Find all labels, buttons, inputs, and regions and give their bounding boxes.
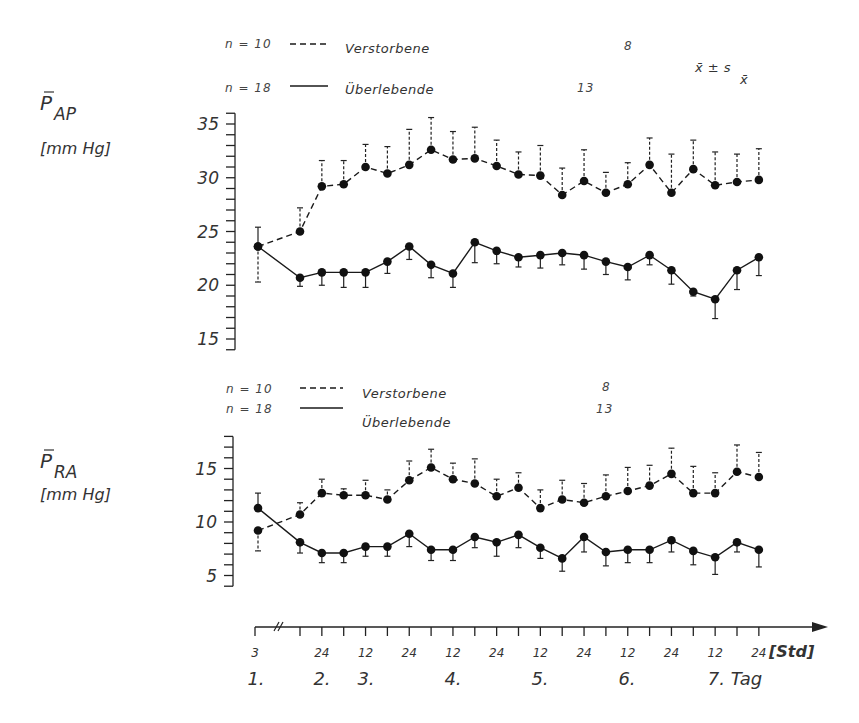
- series-deceased-line: [258, 150, 759, 247]
- y-tick-label: 5: [206, 566, 217, 586]
- x-hour-label: 24: [576, 646, 591, 660]
- x-day-label: 4.: [444, 668, 461, 689]
- data-point: [580, 498, 589, 507]
- data-point: [405, 161, 414, 170]
- data-point: [361, 268, 370, 277]
- legend2-survivors-name: Überlebende: [362, 414, 451, 430]
- data-point: [318, 489, 327, 498]
- x-hour-label: 12: [445, 646, 460, 660]
- data-point: [296, 227, 305, 236]
- data-point: [755, 176, 764, 185]
- data-point: [318, 182, 327, 191]
- data-point: [645, 251, 654, 260]
- data-point: [514, 531, 523, 540]
- data-point: [383, 542, 392, 551]
- data-point: [689, 547, 698, 556]
- y-tick-label: 30: [197, 168, 219, 188]
- data-point: [755, 253, 764, 262]
- data-point: [645, 546, 654, 555]
- legend-survivors-end-n: 13: [577, 81, 594, 95]
- data-point: [471, 479, 480, 488]
- data-point: [514, 483, 523, 492]
- data-point: [645, 161, 654, 170]
- legend-survivors-name: Überlebende: [345, 81, 434, 97]
- legend-deceased-n: n = 10: [225, 37, 272, 51]
- pap-y-axis: 1520253035: [197, 113, 235, 350]
- pra-ylabel-main: P: [40, 449, 53, 473]
- data-point: [733, 467, 742, 476]
- data-point: [755, 546, 764, 555]
- data-point: [339, 268, 348, 277]
- data-point: [667, 470, 676, 479]
- data-point: [689, 489, 698, 498]
- data-point: [667, 536, 676, 545]
- y-tick-label: 20: [197, 275, 219, 295]
- legend-lower: n = 10 Verstorbene 8 n = 18 Überlebende …: [226, 380, 613, 430]
- data-point: [254, 504, 263, 513]
- data-point: [623, 546, 632, 555]
- x-hour-label: 12: [533, 646, 548, 660]
- data-point: [514, 253, 523, 262]
- pra-plot-area: [254, 445, 763, 574]
- data-point: [427, 261, 436, 270]
- data-point: [318, 268, 327, 277]
- data-point: [580, 251, 589, 260]
- data-point: [602, 492, 611, 501]
- data-point: [733, 178, 742, 187]
- x-hour-label: 12: [358, 646, 373, 660]
- x-hour-label: 24: [402, 646, 417, 660]
- x-hour-label: 24: [314, 646, 329, 660]
- data-point: [667, 266, 676, 275]
- data-point: [492, 162, 501, 171]
- x-hour-label: 12: [708, 646, 723, 660]
- legend-survivors-n: n = 18: [225, 81, 272, 95]
- data-point: [645, 481, 654, 490]
- data-point: [296, 538, 305, 547]
- x-hour-label: 12: [620, 646, 635, 660]
- data-point: [558, 495, 567, 504]
- y-tick-label: 25: [197, 222, 219, 242]
- data-point: [733, 538, 742, 547]
- data-point: [602, 257, 611, 266]
- series-deceased-line: [258, 467, 759, 530]
- data-point: [383, 495, 392, 504]
- data-point: [318, 549, 327, 558]
- data-point: [296, 273, 305, 282]
- data-point: [405, 476, 414, 485]
- data-point: [580, 533, 589, 542]
- y-tick-label: 10: [195, 512, 217, 532]
- data-point: [580, 177, 589, 186]
- pap-plot-area: [254, 118, 763, 319]
- data-point: [711, 295, 720, 304]
- y-tick-label: 15: [195, 459, 217, 479]
- series-survivors-line: [258, 242, 759, 299]
- y-tick-label: 15: [197, 329, 219, 349]
- stat-label: x̄ ± s x̄: [694, 60, 748, 87]
- data-point: [602, 189, 611, 198]
- x-hour-label: 24: [664, 646, 679, 660]
- data-point: [711, 181, 720, 190]
- figure-canvas: n = 10 Verstorbene 8 n = 18 Überlebende …: [0, 0, 859, 723]
- data-point: [755, 473, 764, 482]
- pra-y-axis: 51015: [195, 436, 233, 586]
- x-hour-label: 24: [751, 646, 766, 660]
- data-point: [254, 526, 263, 535]
- pap-ylabel-main: P: [40, 91, 53, 115]
- data-point: [492, 492, 501, 501]
- legend-upper: n = 10 Verstorbene 8 n = 18 Überlebende …: [225, 37, 633, 97]
- data-point: [254, 242, 263, 251]
- data-point: [339, 491, 348, 500]
- data-point: [449, 269, 458, 278]
- data-point: [536, 543, 545, 552]
- legend2-survivors-end-n: 13: [596, 402, 613, 416]
- pra-ylabel-unit: [mm Hg]: [40, 485, 111, 504]
- data-point: [405, 242, 414, 251]
- x-unit-label: [Std]: [768, 642, 815, 661]
- stat-sub: x̄: [739, 72, 748, 87]
- data-point: [558, 249, 567, 258]
- data-point: [427, 146, 436, 155]
- data-point: [449, 546, 458, 555]
- legend2-survivors-n: n = 18: [226, 402, 273, 416]
- data-point: [361, 491, 370, 500]
- data-point: [361, 542, 370, 551]
